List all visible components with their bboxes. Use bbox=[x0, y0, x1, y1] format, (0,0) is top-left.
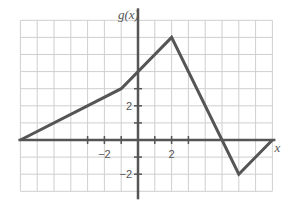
x-axis-label: x bbox=[273, 140, 280, 155]
y-axis-label: g(x) bbox=[118, 7, 139, 22]
function-graph: −222−2 g(x) x bbox=[0, 0, 291, 205]
x-tick-label: 2 bbox=[169, 148, 175, 160]
y-tick-label: 2 bbox=[126, 100, 132, 112]
x-tick-label: −2 bbox=[98, 148, 111, 160]
y-tick-label: −2 bbox=[119, 168, 132, 180]
